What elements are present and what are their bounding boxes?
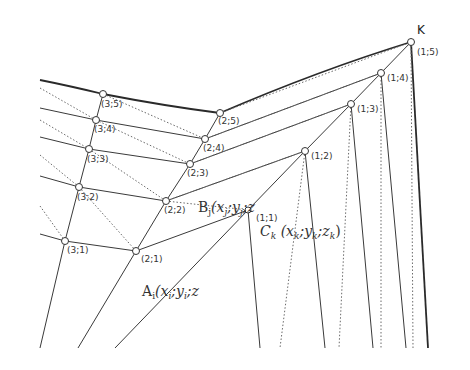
label-2-1: (2;1) bbox=[141, 254, 163, 264]
label-1-2: (1;2) bbox=[311, 151, 333, 161]
node-3-1 bbox=[62, 238, 69, 245]
node-2-4 bbox=[202, 136, 209, 143]
dotted-diag-4 bbox=[40, 120, 89, 149]
point-b-label: Bj(xj;yj;z bbox=[198, 199, 255, 217]
vertical-dotted-1-3 bbox=[339, 104, 351, 348]
node-1-3 bbox=[348, 101, 355, 108]
dotted-diag-1 bbox=[40, 88, 96, 120]
node-2-1 bbox=[133, 248, 140, 255]
node-2-3 bbox=[187, 161, 194, 168]
label-1-3: (1;3) bbox=[357, 104, 379, 114]
dotted-diag-10 bbox=[40, 206, 65, 241]
label-3-2: (3;2) bbox=[77, 192, 99, 202]
point-c-label: Ck (xk;yk;zk) bbox=[260, 223, 341, 241]
node-3-2 bbox=[76, 184, 83, 191]
wireframe-diagram: K (1;5) (1;4) (1;3) (1;2) (1;1) (2;5) (2… bbox=[0, 0, 470, 370]
label-3-1: (3;1) bbox=[67, 245, 89, 255]
vertical-dotted-1-2 bbox=[280, 151, 305, 348]
node-1-2 bbox=[302, 148, 309, 155]
dotted-diag-3 bbox=[220, 42, 411, 113]
node-1-5 bbox=[408, 39, 415, 46]
diagonal-chain bbox=[248, 42, 411, 210]
label-1-5: (1;5) bbox=[417, 47, 439, 57]
label-1-4: (1;4) bbox=[387, 73, 409, 83]
label-3-4: (3;4) bbox=[94, 124, 116, 134]
vertical-1-4 bbox=[381, 73, 406, 348]
node-1-4 bbox=[378, 70, 385, 77]
dotted-diag-7 bbox=[40, 155, 79, 187]
point-a-label: Ai(xi;yi;z bbox=[141, 283, 200, 301]
diagonal-extension bbox=[115, 210, 248, 348]
vertical-1-1 bbox=[248, 210, 260, 348]
node-3-4 bbox=[93, 117, 100, 124]
node-2-2 bbox=[163, 198, 170, 205]
ridge-line bbox=[40, 42, 411, 113]
label-2-4: (2;4) bbox=[203, 143, 225, 153]
label-1-1: (1;1) bbox=[256, 213, 278, 223]
label-2-2: (2;2) bbox=[164, 205, 186, 215]
right-edge-line bbox=[411, 42, 428, 348]
label-3-3: (3;3) bbox=[87, 154, 109, 164]
node-3-3 bbox=[86, 146, 93, 153]
label-2-5: (2;5) bbox=[218, 116, 240, 126]
node-3-5 bbox=[100, 91, 107, 98]
label-3-5: (3;5) bbox=[101, 99, 123, 109]
vertical-1-3 bbox=[351, 104, 373, 348]
vertical-1-2 bbox=[305, 151, 325, 348]
label-2-3: (2;3) bbox=[187, 168, 209, 178]
apex-label-k: K bbox=[417, 23, 426, 37]
